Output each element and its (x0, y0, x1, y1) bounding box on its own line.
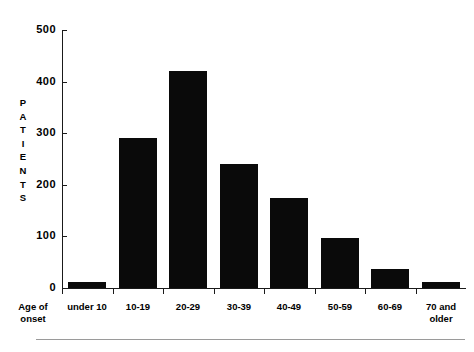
x-axis-tick (62, 289, 63, 294)
x-axis-tick (214, 289, 215, 294)
y-axis-tick (62, 30, 67, 31)
y-axis-tick (62, 185, 67, 186)
y-axis-title-letter: N (16, 164, 30, 178)
y-axis-title-letter: E (16, 150, 30, 164)
bottom-divider-rule (36, 339, 465, 340)
y-axis-tick (62, 82, 67, 83)
y-axis-tick-label: 100 (16, 229, 56, 241)
x-axis-tick-label-line: 70 and (411, 301, 471, 313)
y-axis-title-letter: A (16, 110, 30, 124)
y-axis-line (62, 30, 63, 289)
x-axis-tick (365, 289, 366, 294)
y-axis-title-letter: P (16, 96, 30, 110)
y-axis-tick-label: 400 (16, 75, 56, 87)
bar-40-49 (270, 198, 308, 288)
x-axis-tick (264, 289, 265, 294)
x-axis-tick (416, 289, 417, 294)
bar-30-39 (220, 164, 258, 288)
y-axis-tick (62, 133, 67, 134)
bar-chart-figure: P A T I E N T S 0100200300400500 under 1… (0, 0, 474, 352)
x-axis-title-line: Age of (8, 301, 58, 313)
x-axis-title: Age of onset (8, 301, 58, 325)
bar-10-19 (119, 138, 157, 288)
bar-20-29 (169, 71, 207, 288)
y-axis-title-letter: S (16, 191, 30, 205)
y-axis-tick-label: 200 (16, 178, 56, 190)
y-axis-title-letter: I (16, 137, 30, 151)
x-axis-tick-label-line: older (411, 313, 471, 325)
x-axis-tick (163, 289, 164, 294)
y-axis-tick-label: 500 (16, 23, 56, 35)
y-axis-tick (62, 236, 67, 237)
x-axis-tick-label: 70 andolder (411, 301, 471, 325)
x-axis-tick (315, 289, 316, 294)
x-axis-tick (113, 289, 114, 294)
y-axis-tick-label: 0 (16, 281, 56, 293)
bar-60-69 (371, 269, 409, 288)
y-axis-tick-label: 300 (16, 126, 56, 138)
x-axis-title-line: onset (8, 313, 58, 325)
bar-50-59 (321, 238, 359, 288)
